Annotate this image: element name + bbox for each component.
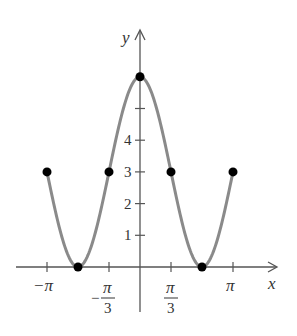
y-tick-label-1: 1: [124, 227, 132, 243]
data-point: [43, 167, 52, 176]
data-point: [198, 263, 207, 272]
minus-sign: −: [91, 290, 99, 306]
pi-numerator: π: [166, 278, 175, 297]
x-tick-label-pi: π: [226, 276, 235, 295]
y-axis-label: y: [120, 28, 130, 47]
y-tick-label-4: 4: [124, 132, 132, 148]
data-point: [167, 167, 176, 176]
denominator: 3: [167, 300, 175, 316]
axis-labels: y x 1 2 3 4 −π π − π 3 π 3: [33, 28, 276, 316]
data-point: [228, 167, 237, 176]
x-axis-label: x: [267, 274, 276, 293]
y-tick-label-2: 2: [124, 196, 132, 212]
y-tick-label-3: 3: [124, 164, 132, 180]
axes: [16, 30, 277, 312]
data-point: [136, 72, 145, 81]
data-point: [73, 263, 82, 272]
data-point: [104, 167, 113, 176]
function-graph: y x 1 2 3 4 −π π − π 3 π 3: [0, 0, 297, 336]
pi-numerator: π: [103, 278, 112, 297]
denominator: 3: [104, 300, 112, 316]
x-tick-label-pi-third: π 3: [164, 278, 178, 316]
x-tick-label-neg-pi: −π: [33, 276, 53, 295]
x-tick-label-neg-pi-third: − π 3: [91, 278, 115, 316]
